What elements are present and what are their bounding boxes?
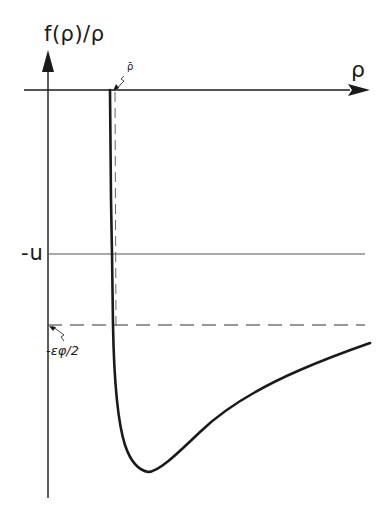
x-axis-label: ρ (351, 59, 365, 81)
rho-bar-label: ρ̄ (127, 62, 133, 72)
rho-bar-dashed-line (115, 92, 116, 330)
y-axis-label: f(ρ)/ρ (44, 24, 105, 45)
level-eps-label: -εφ/2 (46, 344, 79, 357)
potential-diagram: f(ρ)/ρ ρ -u -εφ/2 ρ̄ (0, 0, 389, 520)
y-axis-arrow-icon (42, 50, 54, 72)
level-u-label: -u (21, 243, 44, 264)
potential-curve (110, 90, 370, 472)
x-axis-arrow-icon (348, 84, 370, 96)
